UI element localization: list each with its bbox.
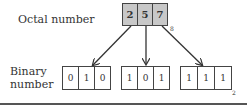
arrow-icon: [93, 26, 131, 65]
binary-label-line2: number: [10, 78, 53, 91]
binary-group-3: 1 1 1: [180, 66, 232, 90]
binary-base-subscript: 2: [232, 89, 236, 96]
binary-bit: 1: [181, 67, 198, 89]
arrow-icon: [162, 26, 202, 65]
divider-line: [0, 103, 247, 105]
binary-label-line1: Binary: [10, 65, 53, 78]
binary-bit: 0: [95, 67, 110, 89]
binary-bit: 0: [138, 67, 154, 89]
binary-bit: 1: [154, 67, 169, 89]
binary-bit: 1: [79, 67, 95, 89]
binary-number-label: Binary number: [10, 65, 53, 91]
binary-bit: 0: [63, 67, 79, 89]
binary-group-2: 1 0 1: [121, 66, 170, 90]
binary-bit: 1: [215, 67, 231, 89]
binary-bit: 1: [122, 67, 138, 89]
binary-bit: 1: [198, 67, 215, 89]
binary-group-1: 0 1 0: [62, 66, 111, 90]
